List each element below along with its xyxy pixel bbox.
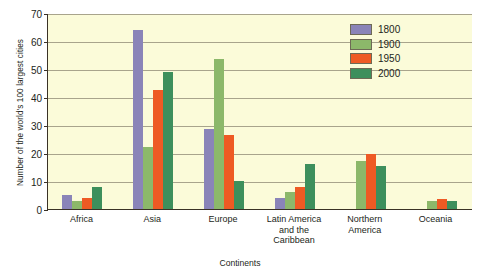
legend-swatch-icon — [350, 24, 372, 35]
bar-2000-latin-america-and-the-caribbean — [305, 164, 315, 209]
bar-1950-northern-america — [366, 154, 376, 209]
legend-item-label: 1900 — [378, 39, 400, 50]
bar-1900-europe — [214, 59, 224, 209]
bar-chart: Number of the world's 100 largest cities… — [0, 0, 480, 280]
bar-2000-asia — [163, 72, 173, 209]
bar-1900-northern-america — [356, 161, 366, 209]
gridline — [48, 42, 472, 43]
gridline — [48, 70, 472, 71]
bar-1800-latin-america-and-the-caribbean — [275, 198, 285, 209]
y-axis-tick-label: 50 — [31, 65, 42, 76]
gridline — [48, 182, 472, 183]
legend-item-label: 1800 — [378, 24, 400, 35]
gridline — [48, 126, 472, 127]
x-axis-label: Asia — [143, 214, 161, 225]
bar-2000-europe — [234, 181, 244, 209]
legend-swatch-icon — [350, 39, 372, 50]
bar-2000-oceania — [447, 201, 457, 209]
bar-1800-africa — [62, 195, 72, 209]
bar-1950-africa — [82, 198, 92, 209]
y-axis-title: Number of the world's 100 largest cities — [16, 13, 25, 213]
bar-2000-northern-america — [376, 166, 386, 209]
legend-item-2000[interactable]: 2000 — [350, 68, 400, 79]
bar-1950-europe — [224, 135, 234, 209]
gridline — [48, 98, 472, 99]
y-axis-tick — [44, 98, 48, 99]
bar-1950-latin-america-and-the-caribbean — [295, 187, 305, 209]
y-axis-tick-label: 10 — [31, 177, 42, 188]
legend-item-label: 1950 — [378, 53, 400, 64]
x-axis-label: Oceania — [419, 214, 453, 225]
y-axis-tick — [44, 70, 48, 71]
y-axis-tick-label: 20 — [31, 149, 42, 160]
y-axis-tick — [44, 42, 48, 43]
y-axis-tick — [44, 126, 48, 127]
y-axis-tick — [44, 154, 48, 155]
y-axis-tick-label: 70 — [31, 9, 42, 20]
legend-item-1900[interactable]: 1900 — [350, 39, 400, 50]
bar-1900-oceania — [427, 201, 437, 209]
bar-1950-asia — [153, 90, 163, 209]
bar-1800-asia — [133, 30, 143, 209]
y-axis-tick-label: 60 — [31, 37, 42, 48]
legend: 1800190019502000 — [350, 24, 400, 79]
y-axis-tick — [44, 14, 48, 15]
bar-2000-africa — [92, 187, 102, 209]
bar-1800-europe — [204, 129, 214, 209]
y-axis-tick — [44, 210, 48, 211]
bar-1900-africa — [72, 201, 82, 209]
y-axis-tick-label: 40 — [31, 93, 42, 104]
bar-1900-asia — [143, 147, 153, 209]
x-axis-label: Latin America and the Caribbean — [267, 214, 322, 246]
legend-swatch-icon — [350, 53, 372, 64]
y-axis-tick — [44, 182, 48, 183]
y-axis-tick-label: 0 — [36, 205, 42, 216]
legend-item-1800[interactable]: 1800 — [350, 24, 400, 35]
x-axis-label: Europe — [209, 214, 238, 225]
y-axis-tick-label: 30 — [31, 121, 42, 132]
plot-area: 010203040506070 — [47, 14, 472, 210]
legend-swatch-icon — [350, 68, 372, 79]
bar-1950-oceania — [437, 199, 447, 209]
x-axis-label: Africa — [70, 214, 93, 225]
gridline — [48, 154, 472, 155]
legend-item-label: 2000 — [378, 68, 400, 79]
x-axis-title: Continents — [0, 258, 480, 268]
gridline — [48, 14, 472, 15]
legend-item-1950[interactable]: 1950 — [350, 53, 400, 64]
x-axis-label: Northern America — [347, 214, 382, 235]
bar-1900-latin-america-and-the-caribbean — [285, 192, 295, 209]
